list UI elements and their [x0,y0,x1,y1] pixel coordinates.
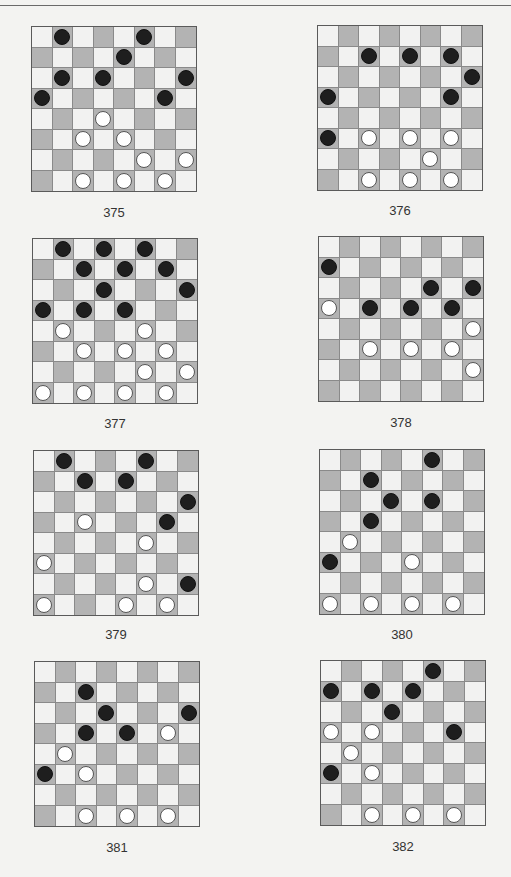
light-square [380,170,401,191]
dark-square [32,89,53,110]
puzzle-number: 378 [318,415,484,430]
dark-square [178,533,199,554]
light-square [319,360,340,381]
light-square [75,451,96,472]
dark-square [137,492,158,513]
dark-square [362,682,383,703]
white-checker-icon [138,535,154,551]
light-square [179,765,200,786]
light-square [117,785,138,806]
black-checker-icon [178,70,194,86]
light-square [114,27,135,48]
white-checker-icon [323,724,339,740]
dark-square [464,491,485,512]
black-checker-icon [321,259,337,275]
dark-square [320,471,341,492]
dark-square [158,806,179,827]
dark-square [115,342,136,363]
dark-square [360,340,381,361]
dark-square [32,130,53,151]
dark-square [319,381,340,402]
dark-square [55,574,76,595]
white-checker-icon [117,385,133,401]
black-checker-icon [158,261,174,277]
puzzle-number: 379 [33,627,199,642]
dark-square [340,278,361,299]
black-checker-icon [362,300,378,316]
black-checker-icon [322,554,338,570]
white-checker-icon [160,725,176,741]
black-checker-icon [446,724,462,740]
white-checker-icon [138,576,154,592]
dark-square [421,26,442,47]
light-square [136,342,157,363]
light-square [74,280,95,301]
dark-square [55,533,76,554]
white-checker-icon [136,152,152,168]
white-checker-icon [160,808,176,824]
dark-square [75,472,96,493]
dark-square [155,130,176,151]
light-square [155,27,176,48]
dark-square [94,109,115,130]
dark-square [383,743,404,764]
dark-square [463,319,484,340]
dark-square [402,594,423,615]
light-square [442,237,463,258]
light-square [137,595,158,616]
black-checker-icon [157,90,173,106]
light-square [157,492,178,513]
light-square [73,27,94,48]
black-checker-icon [425,663,441,679]
dark-square [318,88,339,109]
light-square [403,784,424,805]
dark-square [137,451,158,472]
light-square [424,723,445,744]
light-square [402,450,423,471]
light-square [178,554,199,575]
dark-square [400,170,421,191]
white-checker-icon [57,746,73,762]
light-square [75,574,96,595]
dark-square [179,744,200,765]
dark-square [53,150,74,171]
light-square [321,743,342,764]
light-square [53,130,74,151]
dark-square [463,237,484,258]
light-square [115,321,136,342]
dark-square [74,383,95,404]
light-square [138,765,159,786]
light-square [156,239,177,260]
black-checker-icon [56,453,72,469]
light-square [381,258,402,279]
light-square [97,683,118,704]
light-square [116,533,137,554]
dark-square [321,682,342,703]
black-checker-icon [364,683,380,699]
light-square [136,301,157,322]
black-checker-icon [119,725,135,741]
dark-square [423,532,444,553]
light-square [94,130,115,151]
checkers-board [318,236,484,402]
dark-square [403,805,424,826]
white-checker-icon [137,364,153,380]
light-square [95,260,116,281]
dark-square [177,280,198,301]
light-square [381,381,402,402]
light-square [340,258,361,279]
dark-square [442,340,463,361]
light-square [342,805,363,826]
light-square [443,532,464,553]
dark-square [443,553,464,574]
dark-square [117,765,138,786]
light-square [157,533,178,554]
light-square [158,744,179,765]
dark-square [342,743,363,764]
dark-square [157,513,178,534]
light-square [462,170,483,191]
dark-square [340,319,361,340]
light-square [382,594,403,615]
light-square [178,513,199,534]
white-checker-icon [179,364,195,380]
